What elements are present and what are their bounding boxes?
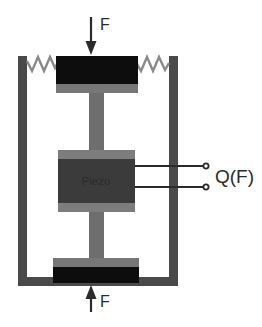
top-plate-body: [56, 56, 138, 84]
frame-left-wall: [18, 56, 27, 286]
bottom-plate-top-strip: [53, 258, 139, 267]
force-label-bottom: F: [100, 293, 110, 310]
piezo-sensor-diagram: Piezo Q(F) F F: [0, 0, 262, 327]
piezo-bottom-cap: [58, 203, 135, 212]
terminal-node-lower[interactable]: [203, 184, 208, 189]
terminal-node-upper[interactable]: [203, 163, 208, 168]
force-label-top: F: [100, 16, 110, 33]
bottom-plate-body: [53, 267, 139, 283]
output-label: Q(F): [215, 166, 254, 187]
top-plate-base-strip: [56, 84, 138, 93]
connecting-rod-lower: [89, 212, 104, 262]
bottom-plate: [53, 258, 139, 283]
top-plate: [56, 56, 138, 93]
connecting-rod-upper: [89, 93, 104, 151]
diagram-canvas: Piezo Q(F) F F: [0, 0, 262, 327]
piezo-block: Piezo: [58, 150, 135, 212]
piezo-top-cap: [58, 150, 135, 159]
piezo-label: Piezo: [82, 175, 111, 187]
frame-right-wall: [169, 56, 178, 286]
